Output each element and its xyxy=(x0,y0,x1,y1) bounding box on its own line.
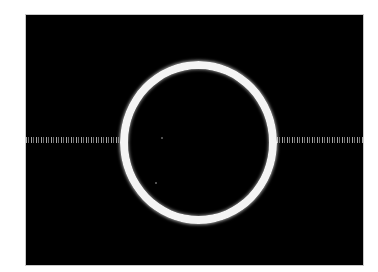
bright-ring xyxy=(120,61,277,224)
faint-speck xyxy=(155,182,157,184)
left-dotted-streak xyxy=(26,137,120,143)
right-dotted-streak xyxy=(277,137,363,143)
image-frame xyxy=(26,15,363,265)
faint-speck xyxy=(161,137,163,139)
